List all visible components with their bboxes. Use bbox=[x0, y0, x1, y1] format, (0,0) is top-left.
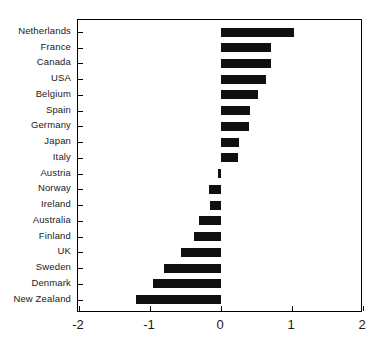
bar bbox=[136, 295, 221, 304]
bar bbox=[210, 201, 221, 210]
bar bbox=[221, 153, 238, 162]
category-label: Spain bbox=[46, 105, 71, 115]
y-axis-tick bbox=[78, 221, 83, 222]
bar bbox=[209, 185, 221, 194]
y-axis-tick bbox=[78, 252, 83, 253]
x-axis-tick bbox=[150, 306, 151, 311]
category-label: USA bbox=[51, 73, 71, 83]
category-label: Ireland bbox=[41, 199, 71, 209]
x-axis-tick bbox=[221, 306, 222, 311]
x-axis-tick-label: 0 bbox=[200, 318, 240, 332]
y-axis-tick bbox=[78, 126, 83, 127]
bar bbox=[199, 216, 221, 225]
bar-chart: NetherlandsFranceCanadaUSABelgiumSpainGe… bbox=[0, 0, 380, 348]
y-axis-tick bbox=[78, 268, 83, 269]
bar bbox=[164, 264, 221, 273]
category-label: Belgium bbox=[36, 89, 71, 99]
y-axis-tick bbox=[78, 79, 83, 80]
category-label: Canada bbox=[37, 57, 71, 67]
plot-area bbox=[78, 20, 361, 311]
x-axis-tick bbox=[363, 306, 364, 311]
category-label: UK bbox=[58, 246, 72, 256]
y-axis-tick bbox=[78, 237, 83, 238]
x-axis-tick-label: -1 bbox=[129, 318, 169, 332]
category-label: Netherlands bbox=[18, 26, 71, 36]
category-label: Germany bbox=[31, 120, 71, 130]
plot-frame bbox=[77, 19, 362, 312]
bar bbox=[221, 90, 258, 99]
bar bbox=[221, 75, 266, 84]
bar bbox=[221, 28, 294, 37]
category-axis-labels: NetherlandsFranceCanadaUSABelgiumSpainGe… bbox=[0, 0, 71, 348]
x-axis-tick bbox=[79, 306, 80, 311]
x-axis-tick bbox=[292, 306, 293, 311]
x-axis-tick-label: -2 bbox=[58, 318, 98, 332]
bar bbox=[221, 106, 250, 115]
category-label: Australia bbox=[33, 215, 71, 225]
bar bbox=[194, 232, 221, 241]
y-axis-tick bbox=[78, 158, 83, 159]
y-axis-tick bbox=[78, 32, 83, 33]
category-label: Finland bbox=[39, 231, 71, 241]
category-label: Sweden bbox=[36, 262, 71, 272]
y-axis-tick bbox=[78, 142, 83, 143]
bar bbox=[221, 43, 271, 52]
category-label: Denmark bbox=[31, 278, 71, 288]
category-label: Japan bbox=[44, 136, 71, 146]
y-axis-tick bbox=[78, 63, 83, 64]
x-axis-tick-label: 2 bbox=[342, 318, 380, 332]
x-axis-tick-label: 1 bbox=[271, 318, 311, 332]
y-axis-tick bbox=[78, 174, 83, 175]
bar bbox=[218, 169, 221, 178]
category-label: Austria bbox=[40, 168, 71, 178]
y-axis-tick bbox=[78, 300, 83, 301]
bar bbox=[221, 59, 271, 68]
bar bbox=[153, 279, 221, 288]
y-axis-tick bbox=[78, 189, 83, 190]
category-label: France bbox=[41, 42, 71, 52]
y-axis-tick bbox=[78, 111, 83, 112]
bar bbox=[221, 122, 249, 131]
y-axis-tick bbox=[78, 284, 83, 285]
y-axis-tick bbox=[78, 95, 83, 96]
bar bbox=[181, 248, 221, 257]
y-axis-tick bbox=[78, 48, 83, 49]
y-axis-tick bbox=[78, 205, 83, 206]
category-label: Italy bbox=[53, 152, 71, 162]
category-label: Norway bbox=[38, 183, 71, 193]
category-label: New Zealand bbox=[13, 294, 71, 304]
bar bbox=[221, 138, 239, 147]
